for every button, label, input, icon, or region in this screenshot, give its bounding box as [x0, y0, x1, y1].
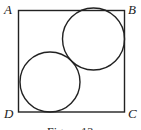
lower-left-circle — [20, 52, 80, 112]
figure-caption: Figure 13 — [47, 125, 93, 130]
vertex-label-c: C — [128, 106, 137, 121]
geometry-figure: A B C D Figure 13 — [0, 0, 141, 130]
vertex-label-b: B — [128, 2, 136, 17]
vertex-label-d: D — [3, 106, 14, 121]
vertex-label-a: A — [3, 2, 12, 17]
